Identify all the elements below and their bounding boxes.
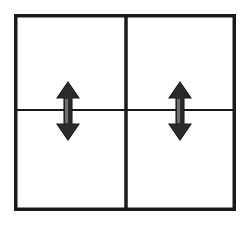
diagram-figure: Rectangular frame divided into four pane…	[0, 0, 250, 225]
diagram-canvas	[0, 0, 250, 225]
right-arrow-shaft-highlight	[177, 99, 180, 123]
left-arrow-shaft-highlight	[65, 99, 68, 123]
